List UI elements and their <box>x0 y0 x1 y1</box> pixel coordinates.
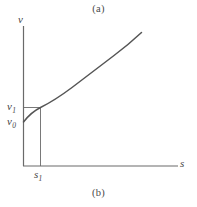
x-tick-s1-subscript: 1 <box>39 174 43 183</box>
x-tick-s1-symbol: s <box>34 168 38 180</box>
x-tick-label-s1: s1 <box>34 169 42 180</box>
y-tick-label-v1: v1 <box>7 101 16 112</box>
y-axis-label: v <box>18 14 23 25</box>
y-tick-label-v0: v0 <box>7 116 16 127</box>
figure-caption-b: (b) <box>0 187 197 198</box>
figure-container: (a) v s v1 v0 s1 (b) <box>0 0 197 207</box>
velocity-curve <box>24 33 142 123</box>
y-tick-v0-subscript: 0 <box>12 121 16 130</box>
y-tick-v1-subscript: 1 <box>12 106 16 115</box>
velocity-distance-plot <box>0 0 197 207</box>
x-axis-label: s <box>180 158 184 169</box>
